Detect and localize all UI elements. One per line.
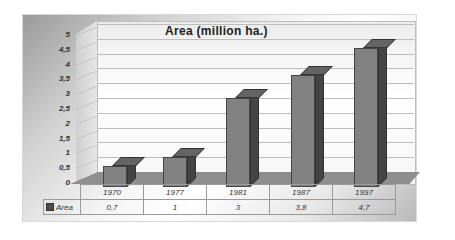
bar-front-face [354, 48, 378, 187]
y-tick-label: 3,5 [40, 75, 70, 83]
bar-side-face [250, 89, 259, 187]
bar-1970 [103, 157, 136, 187]
bar-side-face [378, 39, 387, 187]
bar-1987 [291, 66, 324, 187]
data-table-category: 1997 [333, 185, 396, 200]
legend-label: Area [56, 203, 73, 212]
data-table-category: 1977 [144, 185, 207, 200]
data-table-category: 1987 [270, 185, 333, 200]
y-tick-label: 1 [40, 149, 70, 157]
y-tick-label: 3 [40, 90, 70, 98]
data-table-value: 1 [144, 200, 207, 215]
y-tick-label: 4 [40, 61, 70, 69]
y-tick-label: 2,5 [40, 105, 70, 113]
data-table-header-row: 1970 1977 1981 1987 1997 [44, 185, 396, 200]
y-tick-label: 1,5 [40, 135, 70, 143]
data-table-value: 4,7 [333, 200, 396, 215]
bar-1997 [354, 39, 387, 187]
legend-entry: Area [44, 200, 81, 215]
data-table: 1970 1977 1981 1987 1997 Area 0,7 1 3 3,… [43, 184, 396, 215]
y-tick-label: 0,5 [40, 164, 70, 172]
data-table-value: 3 [207, 200, 270, 215]
y-tick-label: 4,5 [40, 46, 70, 54]
data-table-corner [44, 185, 81, 200]
data-table-category: 1981 [207, 185, 270, 200]
y-tick-label: 2 [40, 120, 70, 128]
bar-side-face [315, 66, 324, 187]
data-table-value: 0,7 [81, 200, 144, 215]
bar-1977 [163, 148, 196, 187]
data-table-value: 3,8 [270, 200, 333, 215]
chart-title: Area (million ha.) [165, 24, 268, 38]
bar-front-face [163, 157, 187, 187]
bar-front-face [226, 98, 250, 187]
bar-front-face [291, 75, 315, 187]
legend-key-icon [46, 203, 54, 211]
data-table-category: 1970 [81, 185, 144, 200]
y-tick-label: 5 [40, 31, 70, 39]
data-table-row: Area 0,7 1 3 3,8 4,7 [44, 200, 396, 215]
bar-1981 [226, 89, 259, 187]
